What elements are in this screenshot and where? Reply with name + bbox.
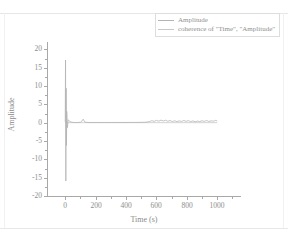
- x-axis-title: Time (s): [47, 215, 241, 224]
- legend-swatch-icon: [158, 29, 174, 30]
- legend-item-coherence[interactable]: coherence of "Time", "Amplitude": [158, 25, 276, 34]
- legend-label: Amplitude: [178, 16, 208, 25]
- series-amplitude-line: [65, 60, 217, 181]
- legend-label: coherence of "Time", "Amplitude": [178, 25, 275, 34]
- chart-legend[interactable]: Amplitude coherence of "Time", "Amplitud…: [155, 13, 280, 37]
- legend-swatch-icon: [158, 20, 174, 21]
- legend-item-amplitude[interactable]: Amplitude: [158, 16, 276, 25]
- y-axis-title: Amplitude: [7, 80, 16, 150]
- chart-figure: 20151050-5-10-15-20 02004006008001000 Ti…: [0, 0, 288, 242]
